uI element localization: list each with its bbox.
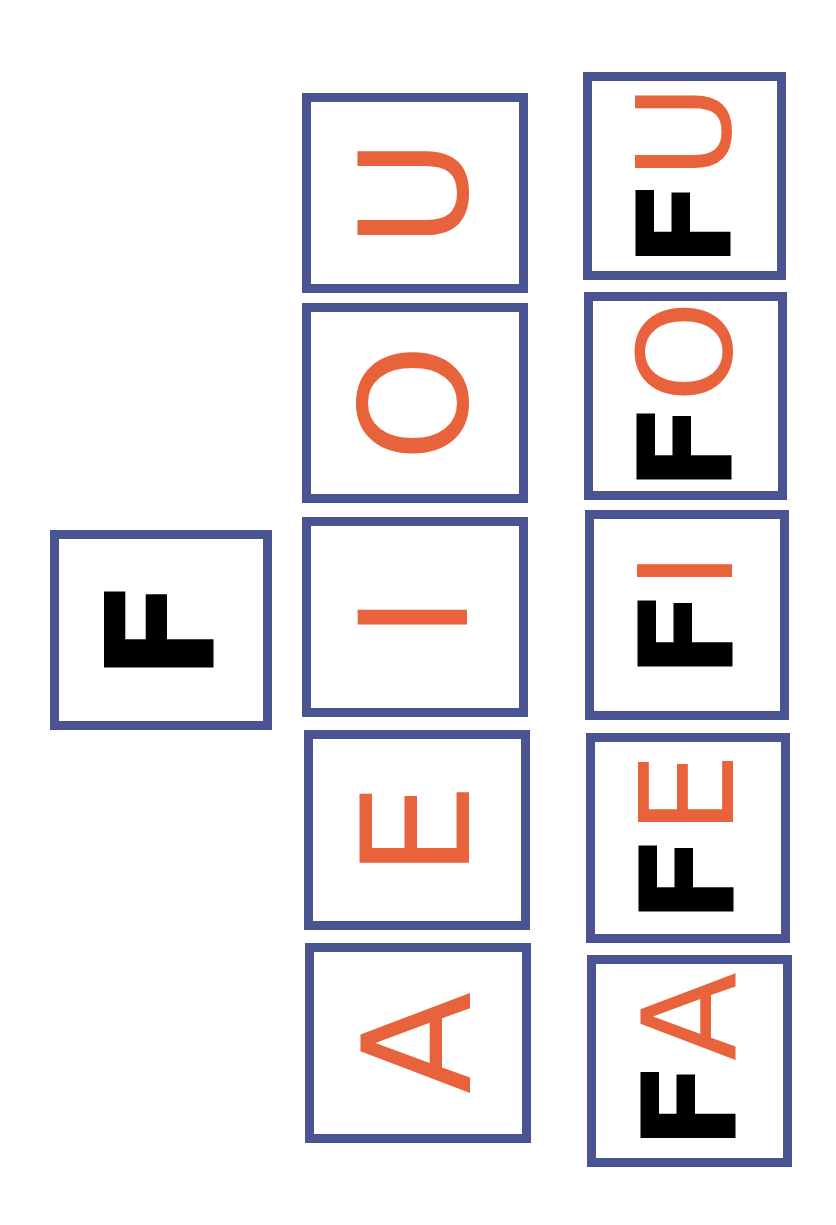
vowel-card-e: E <box>304 730 530 930</box>
syllable-consonant: F <box>611 590 763 679</box>
syllable-card-fo: FO <box>584 292 787 500</box>
vowel-card-u: U <box>302 93 528 293</box>
vowel-letter: O <box>340 344 490 462</box>
consonant-letter: F <box>86 579 236 681</box>
vowel-card-o: O <box>302 303 528 503</box>
syllable-card-fu: FU <box>583 72 786 280</box>
syllable-vowel: U <box>609 84 761 179</box>
vowel-card-a: A <box>305 943 531 1143</box>
syllable-text: FE <box>623 753 753 924</box>
syllable-card-fe: FE <box>586 733 790 943</box>
syllable-card-fi: FI <box>585 510 789 720</box>
syllable-text: FO <box>621 300 751 491</box>
syllable-vowel: I <box>611 551 763 589</box>
consonant-card-f: F <box>50 530 272 730</box>
vowel-letter: E <box>342 783 492 878</box>
syllable-vowel: E <box>612 753 764 835</box>
syllable-vowel: O <box>610 300 762 402</box>
syllable-card-fa: FA <box>587 955 792 1167</box>
syllable-text: FU <box>620 84 750 268</box>
vowel-letter: U <box>340 138 490 248</box>
syllable-consonant: F <box>609 179 761 268</box>
vowel-card-i: I <box>302 517 528 717</box>
vowel-letter: A <box>343 992 493 1095</box>
syllable-consonant: F <box>612 835 764 924</box>
syllable-vowel: A <box>614 972 766 1061</box>
vowel-letter: I <box>340 595 490 639</box>
syllable-consonant: F <box>614 1061 766 1150</box>
syllable-consonant: F <box>610 403 762 492</box>
syllable-text: FI <box>622 551 752 678</box>
syllable-text: FA <box>625 972 755 1150</box>
